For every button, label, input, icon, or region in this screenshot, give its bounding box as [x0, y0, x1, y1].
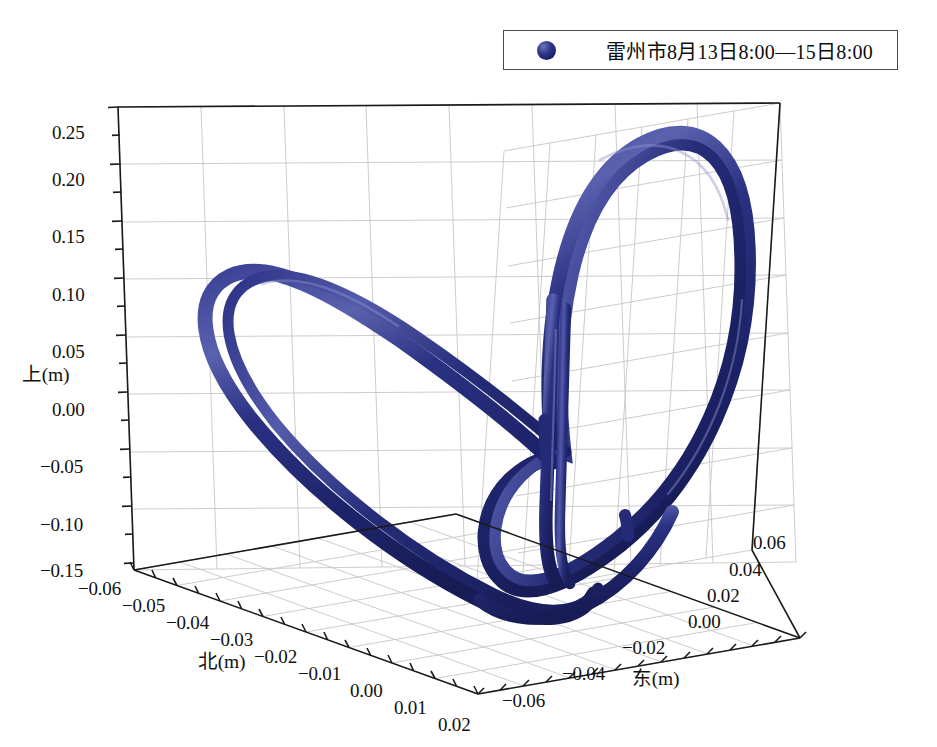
z-tick-label: 0.15: [52, 226, 84, 248]
y-tick-label: 0.06: [753, 532, 785, 554]
y-axis-title: 东(m): [632, 662, 679, 691]
y-tick-label: −0.06: [502, 690, 545, 712]
y-tick-label: −0.02: [622, 637, 665, 659]
x-tick-label: 0.02: [438, 714, 470, 736]
y-tick-label: 0.02: [707, 585, 739, 607]
x-tick-label: 0.01: [394, 697, 426, 719]
y-tick-label: 0.00: [688, 611, 720, 633]
x-tick-label: −0.05: [122, 595, 165, 617]
z-tick-label: −0.05: [40, 456, 83, 478]
legend-label: 雷州市8月13日8:00—15日8:00: [606, 36, 873, 65]
z-tick-label: −0.10: [40, 514, 83, 536]
chart-legend[interactable]: 雷州市8月13日8:00—15日8:00: [503, 30, 898, 70]
z-tick-label: 0.25: [52, 122, 84, 144]
chart-figure: 0.25 0.20 0.15 0.10 0.05 0.00 −0.05 −0.1…: [0, 0, 937, 747]
z-axis-title: 上(m): [22, 358, 69, 387]
y-tick-label: 0.04: [729, 559, 761, 581]
x-tick-label: 0.00: [350, 680, 382, 702]
back-wall-grid: [118, 103, 796, 570]
z-tick-label: 0.00: [52, 399, 84, 421]
x-tick-label: −0.02: [254, 646, 297, 668]
legend-marker-icon: [537, 41, 556, 60]
x-axis-title: 北(m): [198, 645, 245, 674]
z-tick-label: 0.20: [52, 169, 84, 191]
x-tick-label: −0.04: [166, 612, 209, 634]
x-tick-label: −0.01: [298, 663, 341, 685]
x-tick-label: −0.06: [78, 578, 121, 600]
plot-canvas: [0, 0, 937, 747]
trajectory-curve: [205, 133, 748, 617]
z-tick-label: 0.10: [52, 284, 84, 306]
z-tick-label: −0.15: [40, 560, 83, 582]
y-tick-label: −0.04: [562, 663, 605, 685]
